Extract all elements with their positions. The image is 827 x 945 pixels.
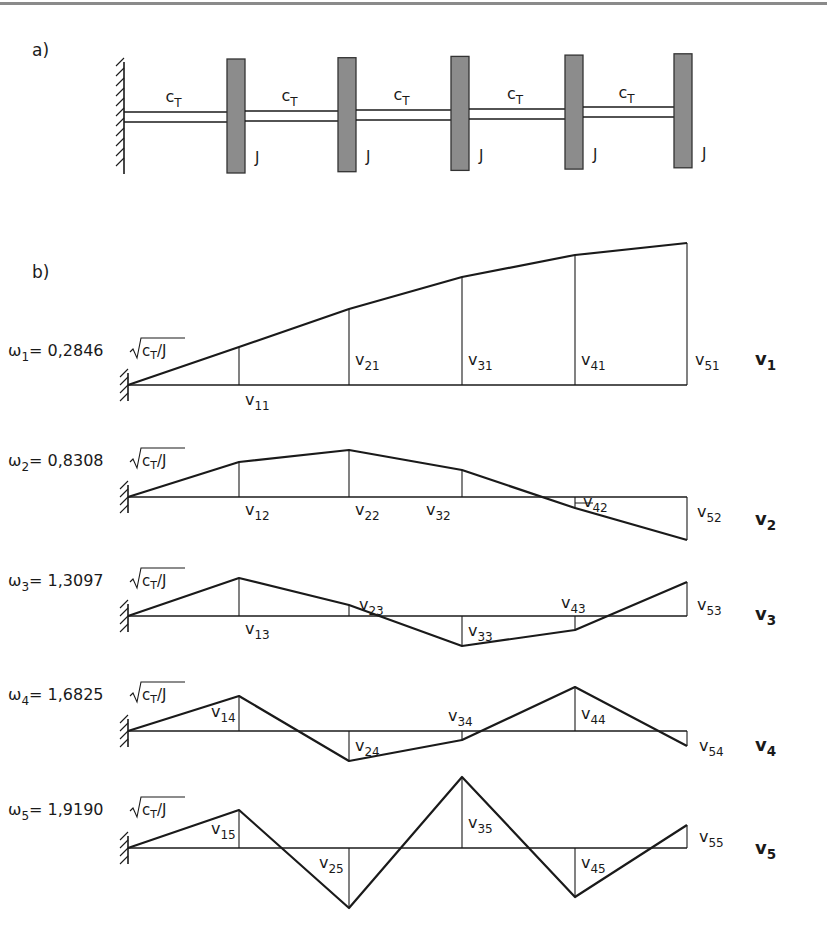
torsional-vibration-diagram: a)cTJcTJcTJcTJcTJb)ω1= 0,2846 cT/Jv11v21… (0, 0, 827, 945)
mode-shape-5: ω5= 1,9190 cT/J (8, 777, 687, 908)
amplitude-label-v15: v15 (211, 819, 236, 842)
spring-constant-label: cT (394, 85, 411, 108)
inertia-label: J (365, 148, 370, 166)
shaft-segment-3 (356, 110, 451, 120)
mode-shape-curve (128, 578, 687, 646)
amplitude-label-v25: v25 (319, 853, 344, 876)
amplitude-label-v52: v52 (697, 502, 722, 525)
amplitude-label-v54: v54 (699, 736, 724, 759)
inertia-disk-2 (338, 58, 356, 172)
inertia-disk-3 (451, 56, 469, 170)
amplitude-label-v23: v23 (359, 595, 384, 618)
fixed-support-hatch (120, 600, 128, 632)
amplitude-label-v43: v43 (561, 593, 586, 616)
eigenfrequency-label: ω3= 1,3097 (8, 571, 104, 594)
sqrt-argument: cT/J (142, 801, 166, 821)
amplitude-label-v21: v21 (355, 350, 380, 373)
amplitude-label-v51: v51 (695, 350, 720, 373)
amplitude-label-v22: v22 (355, 500, 380, 523)
inertia-disk-5 (674, 54, 692, 168)
eigenfrequency-label: ω4= 1,6825 (8, 685, 104, 708)
spring-constant-label: cT (166, 87, 183, 110)
mode-vector-label: v4 (755, 734, 776, 759)
amplitude-label-v11: v11 (245, 390, 270, 413)
amplitude-label-v12: v12 (245, 500, 270, 523)
inertia-label: J (254, 149, 259, 167)
fixed-support-hatch (120, 481, 128, 513)
part-a-label: a) (32, 40, 49, 60)
shaft-segment-2 (245, 111, 338, 121)
inertia-label: J (701, 145, 706, 163)
inertia-disk-1 (227, 59, 245, 173)
amplitude-label-v32: v32 (426, 500, 451, 523)
mode-shape-curve (128, 450, 687, 540)
amplitude-label-v24: v24 (355, 736, 380, 759)
mode-vector-label: v3 (755, 603, 776, 628)
spring-constant-label: cT (282, 86, 299, 109)
mode-shape-curve (128, 777, 687, 908)
amplitude-label-v31: v31 (468, 350, 493, 373)
fixed-support-hatch (120, 369, 128, 401)
sqrt-argument: cT/J (142, 342, 166, 362)
part-b-label: b) (32, 262, 49, 282)
spring-constant-label: cT (507, 84, 524, 107)
inertia-label: J (592, 146, 597, 164)
mode-vector-label: v5 (755, 837, 776, 862)
mode-vector-label: v1 (755, 348, 776, 373)
sqrt-argument: cT/J (142, 452, 166, 472)
amplitude-label-v55: v55 (699, 827, 724, 850)
shaft-segment-4 (469, 109, 565, 119)
amplitude-label-v41: v41 (581, 350, 606, 373)
inertia-label: J (478, 147, 483, 165)
amplitude-label-v34: v34 (448, 706, 473, 729)
eigenfrequency-label: ω2= 0,8308 (8, 451, 104, 474)
sqrt-argument: cT/J (142, 686, 166, 706)
fixed-wall-hatch (116, 58, 124, 174)
amplitude-label-v33: v33 (468, 621, 493, 644)
mode-vector-label: v2 (755, 508, 776, 533)
amplitude-label-v44: v44 (581, 704, 606, 727)
shaft-segment-1 (124, 112, 227, 122)
amplitude-label-v53: v53 (697, 595, 722, 618)
inertia-disk-4 (565, 55, 583, 169)
sqrt-argument: cT/J (142, 572, 166, 592)
spring-constant-label: cT (619, 83, 636, 106)
fixed-support-hatch (120, 715, 128, 747)
amplitude-label-v14: v14 (211, 702, 236, 725)
eigenfrequency-label: ω5= 1,9190 (8, 800, 104, 823)
amplitude-label-v13: v13 (245, 619, 270, 642)
eigenfrequency-label: ω1= 0,2846 (8, 341, 104, 364)
shaft-segment-5 (583, 107, 674, 117)
amplitude-label-v35: v35 (468, 813, 493, 836)
fixed-support-hatch (120, 832, 128, 864)
amplitude-label-v45: v45 (581, 853, 606, 876)
